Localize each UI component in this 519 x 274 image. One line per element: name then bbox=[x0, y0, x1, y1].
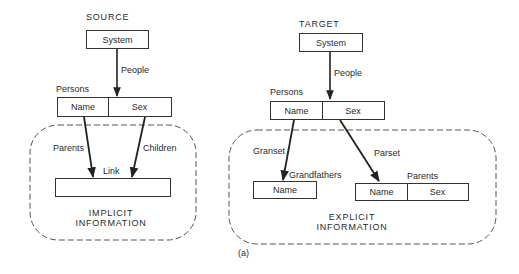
target-parset-edge-label: Parset bbox=[374, 148, 400, 158]
source-parents-edge-label: Parents bbox=[53, 143, 84, 153]
target-system-label: System bbox=[316, 38, 346, 48]
source-link-box bbox=[55, 178, 171, 197]
explicit-label-line1: EXPLICIT bbox=[302, 212, 402, 222]
source-parents-arrow bbox=[84, 117, 93, 177]
source-children-edge-label: Children bbox=[143, 143, 177, 153]
implicit-label-line1: IMPLICIT bbox=[61, 208, 161, 218]
target-grandfathers-name-field: Name bbox=[273, 185, 297, 195]
target-parents-box: Name Sex bbox=[355, 183, 469, 201]
target-system-box: System bbox=[299, 33, 363, 52]
target-parents-sex-field: Sex bbox=[407, 184, 468, 200]
target-persons-sex-field: Sex bbox=[322, 102, 384, 119]
target-parents-name-field: Name bbox=[356, 184, 408, 200]
target-grandfathers-label: Grandfathers bbox=[289, 170, 342, 180]
target-persons-label: Persons bbox=[270, 87, 303, 97]
source-persons-label: Persons bbox=[56, 84, 89, 94]
target-grandfathers-box: Name bbox=[253, 181, 317, 199]
source-persons-sex-field: Sex bbox=[108, 98, 171, 116]
source-people-label: People bbox=[121, 65, 149, 75]
target-granset-edge-label: Granset bbox=[253, 146, 285, 156]
source-link-label: Link bbox=[103, 166, 120, 176]
source-heading: SOURCE bbox=[86, 12, 129, 22]
target-persons-box: Name Sex bbox=[270, 101, 385, 120]
source-persons-name-field: Name bbox=[58, 98, 109, 116]
source-persons-box: Name Sex bbox=[57, 97, 172, 117]
explicit-label-line2: INFORMATION bbox=[302, 222, 402, 232]
target-people-label: People bbox=[334, 68, 362, 78]
source-system-box: System bbox=[86, 30, 149, 49]
source-system-label: System bbox=[102, 35, 132, 45]
figure-caption: (a) bbox=[238, 248, 249, 258]
diagram-lines bbox=[0, 0, 519, 274]
target-persons-name-field: Name bbox=[271, 102, 323, 119]
target-heading: TARGET bbox=[299, 19, 340, 29]
implicit-label-line2: INFORMATION bbox=[61, 218, 161, 228]
target-parents-label: Parents bbox=[407, 171, 438, 181]
